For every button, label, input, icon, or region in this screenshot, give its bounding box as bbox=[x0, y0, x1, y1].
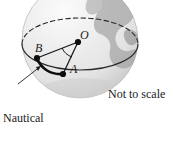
point-dot-B bbox=[34, 55, 40, 61]
point-label-O: O bbox=[80, 29, 89, 42]
not-to-scale-caption: Not to scale bbox=[108, 88, 165, 101]
nautical-mile-caption: Nautical mile bbox=[3, 86, 44, 145]
point-label-A: A bbox=[70, 63, 77, 76]
nautical-mile-figure: O A B Nautical mile Not to scale bbox=[0, 0, 173, 145]
point-label-B: B bbox=[35, 42, 42, 55]
nautical-mile-caption-line1: Nautical bbox=[3, 112, 44, 125]
point-dot-A bbox=[60, 71, 66, 77]
